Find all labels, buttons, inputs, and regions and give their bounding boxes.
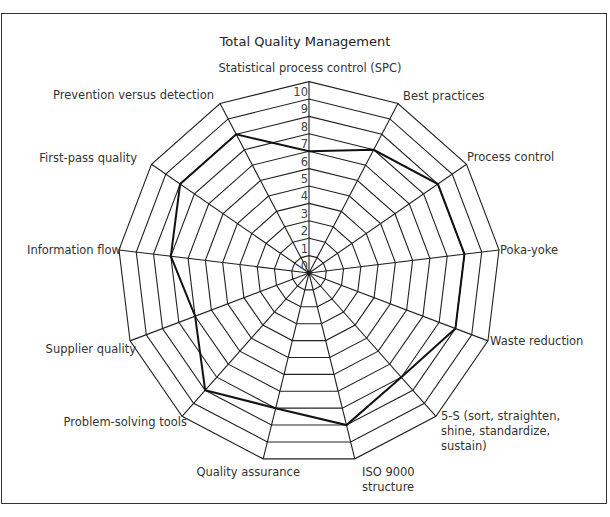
axis-label: Best practices <box>403 89 485 103</box>
axis-label: Problem-solving tools <box>64 415 187 429</box>
radial-tick: 6 <box>301 155 308 169</box>
radial-tick: 5 <box>301 172 308 186</box>
axis-label: 5-S (sort, straighten,shine, standardize… <box>441 409 560 453</box>
axis-spoke <box>309 273 436 416</box>
axis-label: Quality assurance <box>196 465 300 479</box>
axis-spoke <box>309 273 355 459</box>
radial-tick: 3 <box>301 207 308 221</box>
axis-label: Supplier quality <box>46 342 137 356</box>
radial-tick: 10 <box>293 85 308 99</box>
axis-label: Information flow <box>27 243 121 257</box>
radial-tick: 4 <box>301 189 308 203</box>
radial-tick: 9 <box>301 102 308 116</box>
axis-label: ISO 9000structure <box>362 465 415 494</box>
axis-label: Waste reduction <box>490 334 583 348</box>
series-line <box>171 134 465 425</box>
axis-spoke <box>263 273 309 459</box>
radial-tick: 2 <box>301 224 308 238</box>
radial-tick: 1 <box>301 242 308 256</box>
axis-label: First-pass quality <box>39 151 137 165</box>
axis-label: Statistical process control (SPC) <box>218 61 401 75</box>
axis-label: Prevention versus detection <box>53 88 214 102</box>
radial-tick: 0 <box>301 259 308 273</box>
axis-spoke <box>182 273 309 416</box>
radial-tick-labels: 012345678910 <box>293 85 308 273</box>
radial-tick: 8 <box>301 120 308 134</box>
radar-chart: 012345678910 Statistical process control… <box>0 0 610 517</box>
axis-label: Process control <box>467 150 554 164</box>
axis-label: Poka-yoke <box>500 243 558 257</box>
data-series <box>171 134 465 425</box>
